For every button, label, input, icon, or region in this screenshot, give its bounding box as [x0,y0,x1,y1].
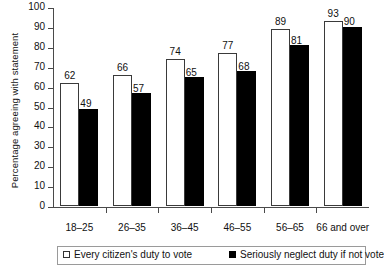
bar-neglect-3 [237,71,256,206]
x-axis-label-4: 56–65 [264,222,317,233]
y-tick-label-30: 30 [23,140,45,151]
legend: Every citizen's duty to vote Seriously n… [57,246,366,265]
x-axis-label-1: 26–35 [106,222,159,233]
bar-duty-5 [324,21,343,206]
x-tick-2 [158,208,159,213]
plot-area: 0102030405060708090100 62496657746577688… [53,8,369,207]
bar-value-label: 62 [60,70,79,81]
y-tick-label-70: 70 [23,61,45,72]
bar-value-label: 81 [291,35,310,46]
bar-duty-0 [60,83,79,206]
bar-value-label: 93 [324,8,343,19]
y-axis-line [53,8,54,208]
y-tick-label-80: 80 [23,41,45,52]
legend-item-neglect: Seriously neglect duty if not vote [229,249,384,260]
bar-value-label: 74 [166,46,185,57]
y-tick-70: 70 [48,68,53,69]
y-tick-10: 10 [48,187,53,188]
y-tick-0: 0 [48,207,53,208]
x-tick-1 [106,208,107,213]
bar-value-label: 65 [186,67,205,78]
bar-duty-2 [166,59,185,206]
y-tick-30: 30 [48,147,53,148]
x-tick-3 [211,208,212,213]
y-tick-60: 60 [48,88,53,89]
y-tick-20: 20 [48,167,53,168]
bar-neglect-1 [132,93,151,206]
y-tick-label-0: 0 [23,200,45,211]
y-tick-label-10: 10 [23,180,45,191]
y-axis-title: Percentage agreeing with statement [9,11,20,211]
legend-swatch-dark-icon [229,251,236,258]
x-tick-5 [316,208,317,213]
x-axis-label-5: 66 and over [316,222,369,233]
bar-neglect-0 [79,109,98,207]
bar-value-label: 68 [238,61,257,72]
legend-label-neglect: Seriously neglect duty if not vote [240,249,384,260]
bar-value-label: 57 [133,83,152,94]
bar-duty-4 [271,29,290,206]
y-tick-90: 90 [48,28,53,29]
legend-item-duty: Every citizen's duty to vote [63,249,192,260]
bar-value-label: 66 [113,62,132,73]
bar-value-label: 49 [80,98,99,109]
bar-neglect-5 [343,27,362,206]
y-tick-100: 100 [48,8,53,9]
x-axis-label-3: 46–55 [211,222,264,233]
y-tick-80: 80 [48,48,53,49]
y-tick-label-20: 20 [23,160,45,171]
bar-duty-3 [218,53,237,206]
legend-label-duty: Every citizen's duty to vote [74,249,192,260]
legend-swatch-light-icon [63,251,70,258]
bar-value-label: 77 [218,40,237,51]
y-tick-40: 40 [48,127,53,128]
bar-value-label: 89 [271,16,290,27]
y-tick-label-40: 40 [23,120,45,131]
bar-neglect-4 [290,45,309,206]
x-tick-4 [264,208,265,213]
y-tick-label-90: 90 [23,21,45,32]
y-tick-50: 50 [48,108,53,109]
bar-value-label: 90 [344,16,363,27]
y-tick-label-60: 60 [23,81,45,92]
x-axis-label-0: 18–25 [53,222,106,233]
x-axis-label-2: 36–45 [158,222,211,233]
bar-neglect-2 [185,77,204,206]
y-tick-label-100: 100 [23,1,45,12]
bar-duty-1 [113,75,132,206]
y-tick-label-50: 50 [23,101,45,112]
